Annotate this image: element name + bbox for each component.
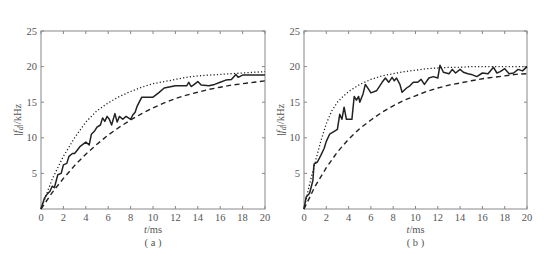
x-tick-label: 8 xyxy=(391,212,396,223)
x-tick-label: 6 xyxy=(106,212,111,223)
plot-frame xyxy=(41,31,265,209)
series-dashed xyxy=(41,81,265,209)
y-tick-label: 15 xyxy=(27,97,38,108)
x-tick-label: 14 xyxy=(455,212,466,223)
x-tick-label: 12 xyxy=(170,212,181,223)
y-axis-label: |fd|/kHz xyxy=(12,103,25,136)
x-tick-label: 14 xyxy=(193,212,204,223)
panel-label: ( a ) xyxy=(145,237,162,249)
x-tick-label: 12 xyxy=(433,212,444,223)
x-tick-label: 4 xyxy=(346,212,352,223)
x-tick-label: 18 xyxy=(237,212,248,223)
plot-frame xyxy=(304,31,527,209)
y-tick-label: 5 xyxy=(32,168,37,179)
y-tick-label: 5 xyxy=(295,168,300,179)
series-dotted xyxy=(41,72,265,209)
x-tick-label: 10 xyxy=(148,212,159,223)
y-tick-label: 25 xyxy=(27,26,38,37)
y-tick-label: 10 xyxy=(27,132,38,143)
chart-canvas: 02468101214161820510152025t/ms|fd|/kHz( … xyxy=(0,0,544,258)
x-tick-label: 16 xyxy=(477,212,488,223)
x-tick-label: 8 xyxy=(128,212,133,223)
series-dotted xyxy=(304,67,527,209)
panel-b: 02468101214161820510152025t/ms|fd|/kHz( … xyxy=(275,26,532,250)
y-tick-label: 25 xyxy=(290,26,301,37)
x-tick-label: 2 xyxy=(324,212,329,223)
y-tick-label: 10 xyxy=(290,132,301,143)
figure: 02468101214161820510152025t/ms|fd|/kHz( … xyxy=(0,0,544,258)
series-dashed xyxy=(304,74,527,209)
y-tick-label: 20 xyxy=(27,61,38,72)
y-axis-label: |fd|/kHz xyxy=(275,103,288,136)
x-tick-label: 4 xyxy=(83,212,89,223)
x-tick-label: 18 xyxy=(499,212,510,223)
x-tick-label: 6 xyxy=(368,212,373,223)
series-solid xyxy=(304,65,527,209)
series-solid xyxy=(41,74,265,209)
panel-a: 02468101214161820510152025t/ms|fd|/kHz( … xyxy=(12,26,270,250)
x-tick-label: 16 xyxy=(215,212,226,223)
x-axis-label: t/ms xyxy=(406,224,424,235)
x-tick-label: 20 xyxy=(522,212,533,223)
x-tick-label: 0 xyxy=(301,212,306,223)
x-tick-label: 2 xyxy=(61,212,66,223)
x-tick-label: 20 xyxy=(260,212,271,223)
panel-label: ( b ) xyxy=(407,237,425,249)
x-axis-label: t/ms xyxy=(144,224,162,235)
y-tick-label: 20 xyxy=(290,61,301,72)
y-tick-label: 15 xyxy=(290,97,301,108)
x-tick-label: 10 xyxy=(410,212,421,223)
x-tick-label: 0 xyxy=(38,212,43,223)
